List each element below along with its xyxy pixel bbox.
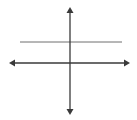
coordinate-plane-diagram <box>0 0 137 120</box>
x-axis-left-arrow-icon <box>9 60 15 67</box>
diagram-canvas <box>0 0 137 120</box>
x-axis-right-arrow-icon <box>124 60 130 67</box>
y-axis-up-arrow-icon <box>67 7 74 13</box>
y-axis-down-arrow-icon <box>67 109 74 115</box>
